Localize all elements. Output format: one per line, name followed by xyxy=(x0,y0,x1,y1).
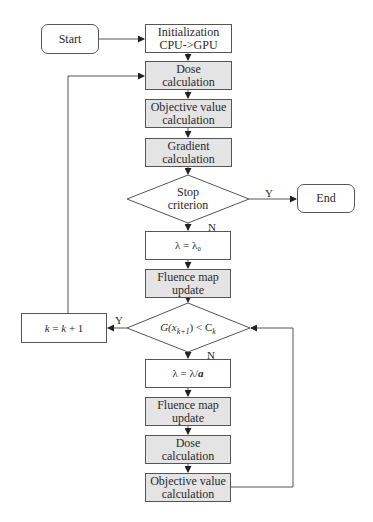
dose-calculation-label-1: Dose calculation xyxy=(162,63,215,89)
fluence-map-update-label-1: Fluence map update xyxy=(157,271,219,297)
lambda-update-label: λ = λ/a xyxy=(173,367,204,380)
dose-calculation-node-1: Dose calculation xyxy=(145,61,232,90)
k-plus-one: + 1 xyxy=(66,322,83,334)
start-label: Start xyxy=(59,33,82,46)
cond-sub-k: k xyxy=(212,327,216,336)
lambda-update-node: λ = λ/a xyxy=(145,359,231,388)
lambda-init-node: λ = λ₀ xyxy=(145,231,231,260)
k-increment-label: k = k + 1 xyxy=(45,322,84,335)
lambda-init-label: λ = λ₀ xyxy=(175,239,201,252)
lambda-update-a: a xyxy=(198,367,204,379)
stop-criterion-label: Stop criterion xyxy=(148,186,228,212)
cond-mid-part: ) < C xyxy=(190,321,213,333)
k-eq: = xyxy=(50,322,62,334)
objective-value-node-2: Objective value calculation xyxy=(145,473,231,502)
objective-value-label-1: Objective value calculation xyxy=(151,101,227,127)
dose-calculation-node-2: Dose calculation xyxy=(145,435,231,464)
gradient-calculation-label: Gradient calculation xyxy=(162,140,215,166)
objective-value-label-2: Objective value calculation xyxy=(150,475,226,501)
objective-value-node-1: Objective value calculation xyxy=(145,99,232,128)
cond-g-part: G(x xyxy=(160,321,177,333)
end-node: End xyxy=(297,184,355,213)
fluence-map-update-node-1: Fluence map update xyxy=(145,269,231,298)
k-increment-node: k = k + 1 xyxy=(21,313,107,343)
fluence-map-update-node-2: Fluence map update xyxy=(145,397,231,426)
start-node: Start xyxy=(41,24,99,54)
initialization-label: Initialization CPU->GPU xyxy=(158,26,219,52)
end-label: End xyxy=(316,192,335,205)
dose-calculation-label-2: Dose calculation xyxy=(162,437,215,463)
convergence-condition-label: G(xk+1) < Ck xyxy=(148,321,228,338)
initialization-node: Initialization CPU->GPU xyxy=(145,24,232,53)
cond-yes-label: Y xyxy=(115,314,123,326)
gradient-calculation-node: Gradient calculation xyxy=(145,138,232,167)
cond-sub-k1: k+1 xyxy=(177,327,190,336)
lambda-update-left: λ = λ/ xyxy=(173,367,198,379)
fluence-map-update-label-2: Fluence map update xyxy=(157,399,219,425)
stop-yes-label: Y xyxy=(265,187,273,199)
